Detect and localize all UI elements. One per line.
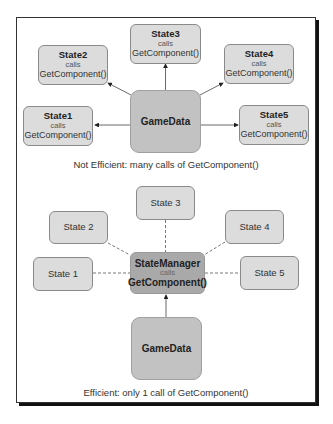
state-label: State 5	[254, 268, 284, 279]
gamedata-label: GameData	[142, 343, 191, 354]
gamedata-label: GameData	[141, 116, 190, 127]
top-gamedata-box: GameData	[130, 90, 201, 153]
bottom-gamedata-box: GameData	[131, 317, 202, 380]
top-caption: Not Efficient: many calls of GetComponen…	[16, 159, 316, 170]
state-calls: calls	[251, 60, 266, 68]
state-fn: GetComponent()	[132, 48, 199, 58]
bottom-state4-box: State 4	[225, 210, 284, 244]
state-label: State 2	[63, 222, 93, 233]
state-label: State 1	[48, 269, 78, 280]
state-manager-box: StateManager calls GetComponent()	[130, 252, 205, 294]
top-state1-box: State1 calls GetComponent()	[23, 106, 93, 146]
state-calls: calls	[158, 40, 173, 48]
state-label: State 4	[239, 222, 269, 233]
top-state3-box: State3 calls GetComponent()	[130, 24, 201, 64]
bottom-state1-box: State 1	[33, 257, 93, 291]
top-state5-box: State5 calls GetComponent()	[239, 105, 309, 145]
state-fn: GetComponent()	[225, 68, 292, 78]
state-calls: calls	[266, 121, 281, 129]
manager-fn: GetComponent()	[128, 277, 207, 288]
state-fn: GetComponent()	[24, 130, 91, 140]
top-state4-box: State4 calls GetComponent()	[224, 44, 294, 84]
bottom-state2-box: State 2	[49, 211, 108, 244]
state-calls: calls	[65, 61, 80, 69]
bottom-state5-box: State 5	[240, 256, 299, 290]
state-label: State 3	[150, 198, 180, 209]
top-state2-box: State2 calls GetComponent()	[38, 45, 108, 85]
state-fn: GetComponent()	[39, 69, 106, 79]
state-calls: calls	[50, 122, 65, 130]
bottom-state3-box: State 3	[136, 186, 195, 220]
bottom-caption: Efficient: only 1 call of GetComponent()	[16, 387, 316, 398]
manager-calls: calls	[160, 269, 175, 277]
state-fn: GetComponent()	[240, 129, 307, 139]
